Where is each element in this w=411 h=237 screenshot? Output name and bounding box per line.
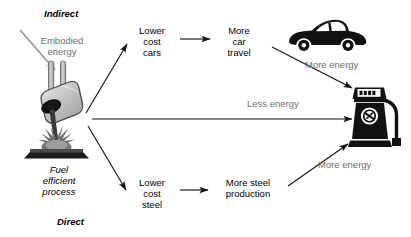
node-fuel-efficient-process: Fuel efficient process [22,164,96,197]
node-more-steel-production: More steel production [212,177,284,199]
section-label-indirect: Indirect [44,8,104,19]
node-embodied-energy: Embodied energy [25,35,99,57]
diagram-canvas: Indirect Embodied energy Fuel efficient … [0,0,411,237]
edge-label-less-energy: Less energy [247,98,319,109]
edge-label-more-energy-bottom: More energy [318,159,390,170]
section-label-direct: Direct [57,216,117,227]
fuel-pump-body [348,88,401,148]
node-more-car-travel: More car travel [215,25,263,58]
edge-label-more-energy-top: More energy [305,59,377,70]
node-lower-cost-cars: Lower cost cars [130,25,174,58]
node-lower-cost-steel: Lower cost steel [130,177,174,210]
